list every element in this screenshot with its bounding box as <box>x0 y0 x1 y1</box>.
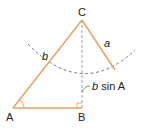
side-a-label: a <box>104 37 110 49</box>
side-b-label: b <box>42 50 48 62</box>
vertex-c-label: C <box>78 6 86 18</box>
angle-a-arc <box>20 100 25 109</box>
height-label: b sin A <box>92 80 126 92</box>
right-angle-marker <box>77 103 82 108</box>
vertex-b-label: B <box>78 111 85 123</box>
vertex-a-label: A <box>6 111 14 123</box>
leader-line <box>82 86 90 92</box>
triangle-diagram: C A B b a b sin A <box>0 0 141 132</box>
side-b <box>13 20 82 108</box>
